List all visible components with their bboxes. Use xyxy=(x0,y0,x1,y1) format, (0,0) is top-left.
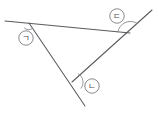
figure-angle-arcs xyxy=(25,21,137,88)
angle-label-bottom: ㄴ xyxy=(85,79,99,93)
geometry-figure: ㄱ ㄴ ㄷ xyxy=(0,0,159,119)
angle-label-right-text: ㄷ xyxy=(113,11,121,21)
figure-canvas: ㄱ ㄴ ㄷ xyxy=(0,0,159,119)
angle-label-left-text: ㄱ xyxy=(22,33,30,43)
angle-label-left: ㄱ xyxy=(19,31,33,45)
figure-segments xyxy=(5,10,152,106)
angle-label-bottom-text: ㄴ xyxy=(88,81,96,91)
angle-arc-left xyxy=(25,28,33,30)
angle-label-right: ㄷ xyxy=(110,9,124,23)
segment-left-edge xyxy=(29,23,85,106)
